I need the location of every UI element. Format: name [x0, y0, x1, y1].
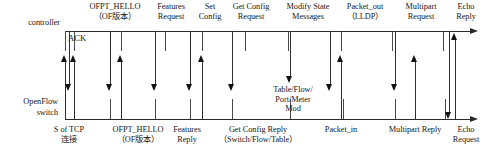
- arrowhead-down: [391, 84, 397, 91]
- arrow-down-echo-reply: [449, 31, 450, 114]
- arrow-down-ofpt-hello: [110, 31, 111, 86]
- arrowhead-down: [286, 76, 292, 83]
- arrow-down-features-request: [155, 31, 156, 86]
- arrow-up-echo-request: [455, 40, 456, 119]
- lane-label-controller: controller: [2, 18, 60, 28]
- switch-tick: [190, 99, 191, 119]
- arrowhead-down: [186, 84, 192, 91]
- controller-tick: [245, 31, 246, 51]
- lane-label-switch: OpenFlow switch: [0, 96, 58, 118]
- ack-label: ACK: [68, 33, 86, 43]
- bottom-label-tcp-connection: S of TCP 连接: [42, 125, 96, 144]
- arrowhead-up: [61, 55, 67, 62]
- switch-tick: [232, 99, 233, 119]
- controller-timeline: [65, 31, 473, 32]
- bottom-label-echo-request: Echo Request: [447, 125, 485, 144]
- switch-tick: [110, 99, 111, 119]
- arrow-up-features-reply: [202, 62, 203, 119]
- arrowhead-up: [451, 33, 457, 40]
- switch-tick: [343, 99, 344, 119]
- arrowhead-up: [70, 55, 76, 62]
- arrowhead-up: [117, 55, 123, 62]
- arrow-down-packet-out: [330, 31, 331, 86]
- controller-tick: [288, 31, 289, 51]
- arrow-up-multipart-reply: [415, 62, 416, 119]
- controller-tick: [392, 31, 393, 51]
- arrowhead-down: [106, 84, 112, 91]
- arrow-up-ofpt-hello: [121, 62, 122, 119]
- top-label-echo-reply: Echo Reply: [448, 2, 484, 21]
- arrow-up-packet-in: [341, 62, 342, 119]
- diagram-canvas: controller OpenFlow switch ACK: [0, 0, 485, 153]
- top-label-packet-out: Packet_out （LLDP）: [334, 2, 396, 21]
- switch-timeline-arrowhead: [470, 116, 478, 122]
- arrow-down-set-config: [190, 31, 191, 86]
- controller-timeline-arrowhead: [470, 28, 478, 34]
- switch-tick: [155, 99, 156, 119]
- mid-label-table-flow-port-meter-mod: Table/Flow/ Port/Meter Mod: [266, 85, 320, 114]
- arrowhead-down: [151, 84, 157, 91]
- arrowhead-down: [445, 112, 451, 119]
- arrowhead-down: [326, 84, 332, 91]
- controller-tick: [65, 31, 66, 51]
- arrowhead-up: [411, 55, 417, 62]
- controller-tick: [165, 31, 166, 51]
- controller-tick: [443, 31, 444, 51]
- top-label-modify-state-messages: Modify State Messages: [275, 2, 341, 21]
- controller-tick: [121, 31, 122, 51]
- arrow-down-tcp-syn: [69, 31, 70, 86]
- arrowhead-down: [228, 84, 234, 91]
- arrow-down-multipart-request: [395, 31, 396, 86]
- top-label-get-config-request: Get Config Request: [222, 2, 280, 21]
- bottom-label-packet-in: Packet_in: [315, 125, 367, 135]
- arrow-down-get-config-request: [232, 31, 233, 86]
- arrowhead-down: [65, 84, 71, 91]
- switch-timeline: [65, 119, 473, 120]
- controller-tick: [202, 31, 203, 51]
- controller-tick: [341, 31, 342, 51]
- arrowhead-up: [198, 55, 204, 62]
- top-label-features-request: Features Request: [145, 2, 197, 21]
- switch-tick: [395, 99, 396, 119]
- arrow-up-ack: [74, 62, 75, 119]
- bottom-label-get-config-reply: Get Config Reply （Switch/Flow/Table）: [204, 125, 312, 144]
- arrowhead-up: [337, 55, 343, 62]
- top-label-multipart-request: Multipart Request: [390, 2, 452, 21]
- bottom-label-multipart-reply: Multipart Reply: [376, 125, 454, 135]
- arrow-down-modify-state: [290, 31, 291, 78]
